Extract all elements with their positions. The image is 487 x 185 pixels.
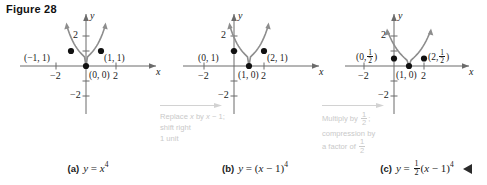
eq-c-den: 2 — [414, 168, 420, 177]
point-label-c-3-open: (2, — [428, 52, 438, 62]
point-label-c-1-fraction: 12 — [367, 49, 373, 66]
eq-a-y: y — [83, 162, 88, 174]
eq-c-eq: = — [404, 162, 410, 174]
point-a-2 — [83, 63, 89, 69]
eq-c-num: 1 — [414, 160, 420, 168]
caption-equation-a: y = x4 — [83, 162, 108, 174]
xtick-label-neg2-b: −2 — [198, 70, 209, 81]
eq-c-minus: − 1 — [432, 162, 446, 174]
x-axis-label-a: x — [156, 66, 160, 77]
point-c-2 — [406, 63, 412, 69]
x-axis-arrow — [312, 63, 319, 69]
eq-c-y: y — [396, 162, 401, 174]
ytick-label-neg2-b: −2 — [218, 89, 229, 100]
point-label-c-3-fraction: 12 — [439, 49, 445, 66]
point-label-c-3-den: 2 — [439, 56, 445, 65]
ytick-label-pos2-b: 2 — [221, 29, 226, 40]
xtick-label-neg2-a: −2 — [50, 70, 61, 81]
plot-a: y x −2 2 2 −2 (−1, 1) (0, 0) (1, 1) — [8, 4, 168, 124]
point-label-a-2: (0, 0) — [89, 70, 110, 80]
point-c-3 — [421, 55, 427, 61]
eq-b-minus: − 1 — [266, 162, 280, 174]
eq-b-x: x — [258, 162, 263, 174]
caption-b: (b)y = (x − 1)4 — [175, 160, 335, 174]
ytick-label-pos2-a: 2 — [73, 29, 78, 40]
point-label-b-3: (2, 1) — [267, 53, 288, 63]
x-axis-arrow — [149, 63, 156, 69]
curve-b-arrow-left — [227, 23, 232, 30]
plot-a-svg — [8, 4, 168, 124]
curve-b — [230, 26, 268, 66]
ytick-label-neg2-c: −2 — [378, 89, 389, 100]
x-axis-arrow — [462, 63, 469, 69]
point-label-c-1-num: 1 — [367, 49, 373, 57]
panel-a: y x −2 2 2 −2 (−1, 1) (0, 0) (1, 1) (a)y… — [8, 0, 168, 185]
plot-b-svg — [175, 4, 335, 124]
caption-label-a: (a) — [68, 163, 80, 174]
point-c-1 — [391, 55, 397, 61]
plot-b: y x −2 2 2 −2 (0, 1) (1, 0) (2, 1) — [175, 4, 335, 124]
point-label-c-2: (1, 0) — [396, 70, 417, 80]
point-b-2 — [246, 63, 252, 69]
eq-b-y: y — [238, 162, 243, 174]
caption-a: (a)y = x4 — [8, 160, 168, 174]
point-label-c-1-open: (0, — [356, 52, 366, 62]
end-of-example-marker — [463, 164, 472, 174]
point-label-c-3-num: 1 — [439, 49, 445, 57]
caption-equation-b: y = (x − 1)4 — [238, 162, 288, 174]
curve-b-arrow-right — [265, 23, 270, 30]
point-label-c-1-close: ) — [374, 52, 377, 62]
curve-a-arrow-left — [64, 23, 69, 30]
y-axis-label-c: y — [398, 10, 402, 21]
y-axis-arrow — [83, 14, 89, 21]
point-label-c-1: (0,12) — [356, 49, 377, 66]
ytick-label-neg2-a: −2 — [70, 89, 81, 100]
x-axis-label-b: x — [319, 66, 323, 77]
point-label-a-3: (1, 1) — [104, 53, 125, 63]
caption-equation-c: y = 12(x − 1)4 — [396, 162, 454, 174]
ytick-label-pos2-c: 2 — [381, 29, 386, 40]
point-label-b-2: (1, 0) — [238, 70, 259, 80]
point-label-c-3: (2,12) — [428, 49, 449, 66]
point-b-1 — [231, 48, 237, 54]
curve-a-arrow-right — [102, 23, 107, 30]
eq-a-eq: = — [91, 162, 97, 174]
eq-b-eq: = — [246, 162, 252, 174]
xtick-label-pos2-b: 2 — [261, 70, 266, 81]
y-axis-arrow — [391, 14, 397, 21]
y-axis-label-b: y — [238, 10, 242, 21]
xtick-label-neg2-c: −2 — [358, 70, 369, 81]
y-axis-arrow — [231, 14, 237, 21]
eq-c-x: x — [424, 162, 429, 174]
x-axis-label-c: x — [469, 66, 473, 77]
caption-label-c: (c) — [380, 163, 392, 174]
caption-label-b: (b) — [222, 163, 234, 174]
plot-c: y x −2 2 2 −2 (0,12) (1, 0) (2,12) — [337, 4, 487, 124]
point-label-a-1: (−1, 1) — [24, 53, 50, 63]
panel-b: y x −2 2 2 −2 (0, 1) (1, 0) (2, 1) (b)y … — [175, 0, 335, 185]
xtick-label-pos2-a: 2 — [113, 70, 118, 81]
point-label-c-1-den: 2 — [367, 56, 373, 65]
point-label-b-1: (0, 1) — [198, 53, 219, 63]
eq-b-exp: 4 — [284, 160, 288, 169]
point-a-1 — [68, 48, 74, 54]
panel-c: y x −2 2 2 −2 (0,12) (1, 0) (2,12) (c)y … — [337, 0, 487, 185]
eq-a-exp: 4 — [105, 160, 109, 169]
eq-c-exp: 4 — [450, 160, 454, 169]
y-axis-label-a: y — [90, 10, 94, 21]
point-label-c-3-close: ) — [446, 52, 449, 62]
eq-c-fraction: 12 — [414, 160, 420, 178]
xtick-label-pos2-c: 2 — [421, 70, 426, 81]
